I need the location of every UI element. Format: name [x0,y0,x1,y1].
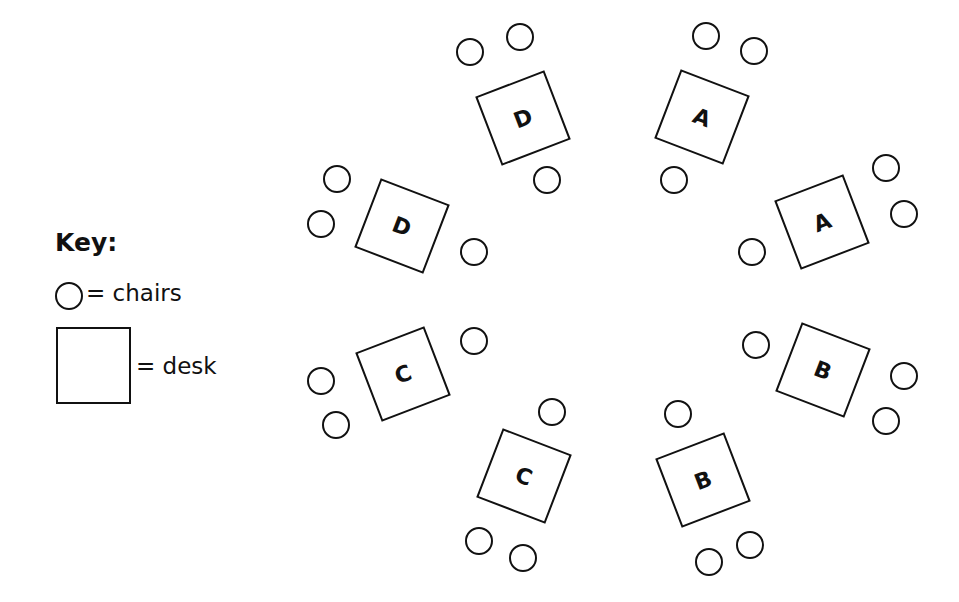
chair-icon [506,23,534,51]
chair-icon [695,548,723,576]
chair-icon [307,367,335,395]
chair-icon [538,398,566,426]
key-chair-label: = chairs [86,280,182,306]
desk-label: C [512,461,536,490]
chair-icon [533,166,561,194]
key-desk-label: = desk [136,353,217,379]
desk-label: A [690,102,715,131]
chair-icon [307,210,335,238]
chair-icon [742,331,770,359]
chair-icon [692,22,720,50]
chair-icon [465,527,493,555]
chair-icon [460,238,488,266]
desk-c-left: C [355,326,451,422]
desk-label: C [391,359,415,388]
desk-label: D [510,103,536,133]
chair-icon [322,411,350,439]
key-desk-symbol-icon [56,327,131,404]
desk-label: A [810,207,835,236]
desk-c-bottom: C [476,428,572,524]
chair-icon [872,407,900,435]
desk-d-top: D [475,70,571,166]
chair-icon [456,38,484,66]
desk-label: B [811,355,836,384]
chair-icon [736,531,764,559]
desk-b-right: B [775,322,871,418]
desk-d-left: D [354,178,450,274]
chair-icon [890,200,918,228]
desk-a-top: A [654,69,750,165]
chair-icon [664,400,692,428]
desk-a-right: A [774,174,870,270]
chair-icon [509,544,537,572]
chair-icon [460,327,488,355]
chair-icon [738,238,766,266]
desk-b-bottom: B [655,432,751,528]
key-title: Key: [55,228,117,257]
chair-icon [890,362,918,390]
chair-icon [323,165,351,193]
chair-icon [872,154,900,182]
key-chair-symbol-icon [55,282,83,310]
desk-label: D [389,211,415,241]
chair-icon [740,37,768,65]
desk-label: B [691,465,716,494]
chair-icon [660,166,688,194]
